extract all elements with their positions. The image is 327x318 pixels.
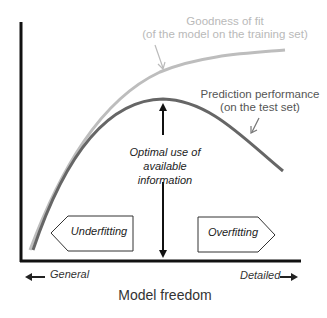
pred-label-line1: Prediction performance [200, 88, 320, 101]
fit-label-line2: (of the model on the training set) [120, 28, 327, 41]
overfitting-label: Overfitting [200, 226, 266, 238]
prediction-performance-label: Prediction performance (on the test set) [200, 88, 320, 114]
underfitting-label: Underfitting [66, 225, 132, 237]
prediction-callout-arrow [252, 118, 259, 132]
pred-label-line2: (on the test set) [200, 101, 320, 114]
goodness-of-fit-label: Goodness of fit (of the model on the tra… [120, 15, 327, 41]
detailed-label: Detailed [240, 269, 280, 281]
optimal-line2: available [115, 159, 215, 173]
optimal-line1: Optimal use of [115, 145, 215, 159]
general-label: General [50, 268, 89, 280]
x-axis-title: Model freedom [110, 287, 220, 303]
optimal-line3: information [115, 173, 215, 187]
fit-label-line1: Goodness of fit [120, 15, 327, 28]
optimal-label: Optimal use of available information [115, 145, 215, 187]
